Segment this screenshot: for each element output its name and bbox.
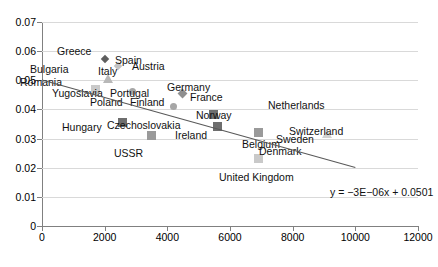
gridline [42, 51, 418, 52]
data-point-label: United Kingdom [219, 172, 294, 183]
y-tick-label: 0.07 [2, 17, 36, 27]
y-tick-label-wrap: 0.06 [0, 46, 36, 56]
data-point-marker [254, 128, 263, 137]
data-point-label: Finland [130, 97, 164, 108]
y-tick-label-wrap: 0.07 [0, 17, 36, 27]
x-axis-line [42, 226, 419, 227]
data-point-label: Greece [57, 46, 91, 57]
data-point-label: Norway [196, 110, 232, 121]
data-point-label: Switzerland [289, 126, 343, 137]
data-point-label: Bulgaria [30, 64, 69, 75]
y-tick-label: 0.01 [2, 192, 36, 202]
y-tick-label: 0.02 [2, 163, 36, 173]
data-point-label: Austria [132, 61, 165, 72]
x-tick-label: 2000 [75, 231, 135, 243]
y-tick-label: 0 [2, 221, 36, 231]
y-tick-label-wrap: 0 [0, 221, 36, 231]
data-point-label: Czechoslovakia [107, 120, 181, 131]
gridline [42, 80, 418, 81]
x-tick-label: 6000 [200, 231, 260, 243]
x-tick-label: 12000 [388, 231, 438, 243]
data-point-label: Netherlands [268, 100, 325, 111]
data-point-marker [147, 131, 156, 140]
gridline [42, 22, 418, 23]
y-tick-label-wrap: 0.03 [0, 134, 36, 144]
gridline [42, 168, 418, 169]
data-point-marker [101, 55, 109, 63]
data-point-label: Italy [98, 66, 117, 77]
x-tick-label: 4000 [137, 231, 197, 243]
y-tick-label: 0.03 [2, 134, 36, 144]
y-tick-label-wrap: 0.04 [0, 104, 36, 114]
y-tick-label-wrap: 0.02 [0, 163, 36, 173]
x-tick-label: 0 [12, 231, 72, 243]
x-tick-label: 8000 [263, 231, 323, 243]
scatter-chart: 00.010.020.030.040.050.060.07 0200040006… [0, 0, 438, 267]
data-point-label: Ireland [175, 130, 207, 141]
data-point-label: Denmark [259, 146, 302, 157]
data-point-label: Hungary [62, 122, 102, 133]
y-tick-label: 0.04 [2, 104, 36, 114]
y-tick-label: 0.06 [2, 46, 36, 56]
data-point-label: Poland [90, 97, 123, 108]
trendline-equation: y = −3E−06x + 0.0501 [330, 186, 433, 198]
gridline [42, 139, 418, 140]
data-point-marker [213, 122, 222, 131]
y-tick-label-wrap: 0.01 [0, 192, 36, 202]
x-tick-label: 10000 [325, 231, 385, 243]
data-point-label: France [190, 92, 223, 103]
data-point-label: USSR [114, 148, 143, 159]
